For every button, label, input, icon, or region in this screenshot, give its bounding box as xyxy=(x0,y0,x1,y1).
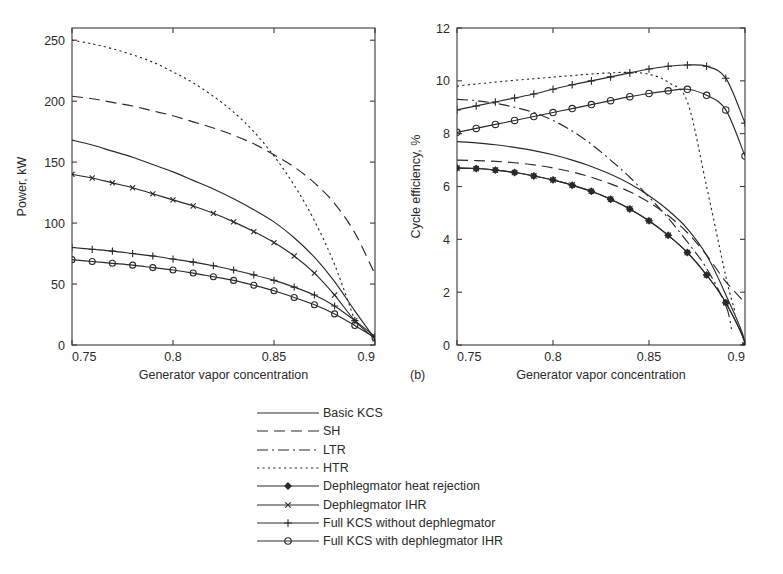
chart-svg-b: 0246810120.750.80.850.9Generator vapor c… xyxy=(400,0,783,400)
legend-label: Full KCS without dephlegmator xyxy=(321,514,495,532)
curve-line xyxy=(72,96,375,274)
marker-plus xyxy=(664,63,672,71)
legend-item: Full KCS without dephlegmator xyxy=(255,514,675,532)
marker-plus xyxy=(169,255,176,262)
series-4 xyxy=(454,165,748,351)
curves-b xyxy=(453,61,749,350)
curve-line xyxy=(457,160,745,303)
marker-plus xyxy=(607,73,615,81)
legend-line-sample xyxy=(255,459,321,477)
curve-line xyxy=(457,89,745,156)
marker-plus xyxy=(250,271,257,278)
marker-plus xyxy=(684,61,692,69)
marker-plus xyxy=(472,102,480,110)
panel-letter: (b) xyxy=(410,368,425,382)
y-tick-label: 200 xyxy=(44,95,65,109)
legend-line-sample xyxy=(255,532,321,550)
curve-line xyxy=(72,260,375,338)
y-axis-title: Cycle efficiency, % xyxy=(409,135,423,239)
marker-plus xyxy=(530,90,538,98)
marker-plus xyxy=(291,283,298,290)
curve-line xyxy=(72,140,375,339)
x-tick-label: 0.75 xyxy=(457,350,481,364)
figure-container: 0501001502002500.750.80.850.9Generator v… xyxy=(0,0,783,574)
legend-label: SH xyxy=(321,422,340,440)
marker-cross xyxy=(251,229,256,234)
legend-label: Dephlegmator IHR xyxy=(321,496,427,514)
marker-plus xyxy=(109,248,116,255)
legend-label: Full KCS with dephlegmator IHR xyxy=(321,532,503,550)
marker-cross xyxy=(312,271,317,276)
marker-plus xyxy=(190,258,197,265)
series-7 xyxy=(454,86,748,159)
x-axis-title: Generator vapor concentration xyxy=(516,368,686,382)
chart-panel-a: 0501001502002500.750.80.850.9Generator v… xyxy=(0,0,400,400)
x-tick-label: 0.85 xyxy=(262,350,286,364)
y-tick-label: 12 xyxy=(436,22,450,36)
series-5 xyxy=(454,165,747,350)
legend-label: Basic KCS xyxy=(321,404,383,422)
marker-plus xyxy=(549,85,557,93)
y-tick-label: 0 xyxy=(443,339,450,353)
marker-plus xyxy=(149,252,156,259)
series-5 xyxy=(69,172,377,342)
axes-a xyxy=(72,28,375,345)
series-1 xyxy=(457,160,745,303)
legend-line-sample xyxy=(255,404,321,422)
marker-cross xyxy=(211,211,216,216)
plot-frame xyxy=(72,28,375,345)
legend-item: SH xyxy=(255,422,675,440)
curve-line xyxy=(457,142,745,351)
marker-plus xyxy=(284,519,292,527)
marker-plus xyxy=(230,266,237,273)
curve-line xyxy=(457,168,745,350)
y-tick-label: 150 xyxy=(44,156,65,170)
marker-plus xyxy=(453,106,461,114)
marker-plus xyxy=(703,63,711,71)
marker-cross xyxy=(292,253,297,258)
curve-line xyxy=(72,247,375,336)
legend-item: Full KCS with dephlegmator IHR xyxy=(255,532,675,550)
chart-svg-a: 0501001502002500.750.80.850.9Generator v… xyxy=(0,0,400,400)
legend-label: Dephlegmator heat rejection xyxy=(321,477,480,495)
y-tick-label: 0 xyxy=(58,339,65,353)
y-tick-label: 8 xyxy=(443,127,450,141)
marker-cross xyxy=(231,219,236,224)
curve-line xyxy=(72,174,375,339)
series-1 xyxy=(72,96,375,274)
y-tick-label: 50 xyxy=(51,278,65,292)
x-tick-label: 0.8 xyxy=(544,350,561,364)
marker-plus xyxy=(331,302,338,309)
legend-label: LTR xyxy=(321,441,346,459)
chart-legend: Basic KCSSHLTRHTRDephlegmator heat rejec… xyxy=(255,404,675,552)
y-tick-label: 250 xyxy=(44,34,65,48)
curve-line xyxy=(457,65,745,123)
series-0 xyxy=(72,140,375,339)
marker-plus xyxy=(492,98,500,106)
marker-plus xyxy=(626,69,634,77)
x-tick-label: 0.85 xyxy=(637,350,661,364)
marker-cross xyxy=(332,292,337,297)
marker-plus xyxy=(568,81,576,89)
curve-line xyxy=(457,99,732,329)
marker-plus xyxy=(129,250,136,257)
x-tick-label: 0.9 xyxy=(358,350,375,364)
y-tick-label: 2 xyxy=(443,286,450,300)
legend-line-sample xyxy=(255,441,321,459)
legend-label: HTR xyxy=(321,459,349,477)
x-tick-label: 0.8 xyxy=(164,350,181,364)
y-tick-label: 100 xyxy=(44,217,65,231)
marker-plus xyxy=(68,244,75,251)
legend-item: Dephlegmator heat rejection xyxy=(255,477,675,495)
legend-line-sample xyxy=(255,422,321,440)
series-2 xyxy=(457,99,732,329)
marker-cross xyxy=(271,240,276,245)
x-tick-label: 0.9 xyxy=(728,350,745,364)
series-0 xyxy=(457,142,745,351)
legend-line-sample xyxy=(255,477,321,495)
marker-plus xyxy=(270,277,277,284)
legend-line-sample xyxy=(255,496,321,514)
chart-panel-b: 0246810120.750.80.850.9Generator vapor c… xyxy=(400,0,783,400)
marker-plus xyxy=(741,119,749,127)
series-7 xyxy=(69,257,378,341)
